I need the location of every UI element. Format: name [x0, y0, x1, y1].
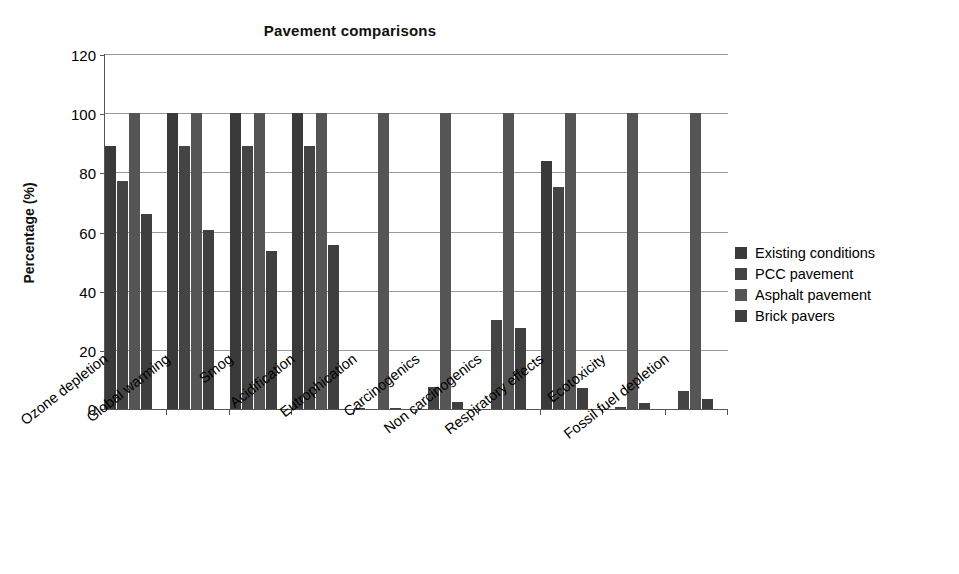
bar — [702, 399, 713, 409]
bar — [179, 146, 190, 409]
chart-container: Pavement comparisons Percentage (%) 0204… — [0, 0, 959, 574]
bar-group — [666, 54, 728, 409]
legend-item: PCC pavement — [735, 263, 950, 284]
bar — [503, 113, 514, 409]
bar — [191, 113, 202, 409]
legend-item: Brick pavers — [735, 305, 950, 326]
x-tick-mark — [727, 409, 728, 415]
bar — [378, 113, 389, 409]
bar — [639, 403, 650, 409]
bar — [129, 113, 140, 409]
bar — [105, 146, 116, 409]
chart-title: Pavement comparisons — [0, 22, 700, 39]
y-tick-label: 80 — [79, 165, 96, 182]
bar — [254, 113, 265, 409]
legend-item: Asphalt pavement — [735, 284, 950, 305]
bar — [541, 161, 552, 410]
bar — [304, 146, 315, 409]
bar — [627, 113, 638, 409]
legend-swatch-icon — [735, 268, 747, 280]
bar — [440, 113, 451, 409]
legend-swatch-icon — [735, 289, 747, 301]
legend-item: Existing conditions — [735, 242, 950, 263]
y-axis-title: Percentage (%) — [21, 143, 37, 323]
bar — [577, 388, 588, 409]
legend-swatch-icon — [735, 247, 747, 259]
bar — [565, 113, 576, 409]
bar — [615, 407, 626, 409]
bar — [678, 391, 689, 409]
bar — [117, 181, 128, 409]
bar — [242, 146, 253, 409]
bar — [316, 113, 327, 409]
chart-legend: Existing conditionsPCC pavementAsphalt p… — [735, 242, 950, 326]
y-tick-label: 60 — [79, 224, 96, 241]
legend-label: PCC pavement — [755, 266, 853, 282]
y-tick-label: 120 — [71, 47, 96, 64]
bar — [553, 187, 564, 409]
y-tick-label: 100 — [71, 106, 96, 123]
legend-label: Brick pavers — [755, 308, 835, 324]
legend-label: Existing conditions — [755, 245, 875, 261]
bar — [690, 113, 701, 409]
y-tick-label: 40 — [79, 283, 96, 300]
legend-swatch-icon — [735, 310, 747, 322]
x-axis-labels: Ozone depletionGlobal warmingSmogAcidifi… — [104, 412, 727, 562]
legend-label: Asphalt pavement — [755, 287, 871, 303]
